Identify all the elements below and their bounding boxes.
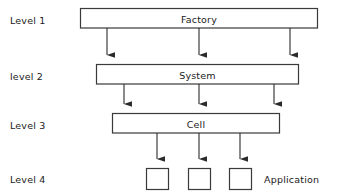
level-label-3: Level 3 [10,120,46,131]
arrow-group-factory-to-system [107,28,290,55]
arrow-group-cell-to-application [157,133,240,159]
box-application-2 [189,169,211,190]
level-label-4: Level 4 [10,174,46,185]
arrow-group-system-to-cell [124,84,274,104]
level-label-2: level 2 [10,71,43,82]
box-label-cell: Cell [112,119,280,130]
box-label-system: System [96,70,299,81]
box-label-factory: Factory [80,14,318,25]
box-application-3 [230,169,252,190]
diagram-graphics [0,0,338,195]
annotation-application: Application [264,174,319,185]
level-label-1: Level 1 [10,15,46,26]
box-application-1 [147,169,169,190]
diagram-canvas: Level 1 level 2 Level 3 Level 4 Factory … [0,0,338,195]
